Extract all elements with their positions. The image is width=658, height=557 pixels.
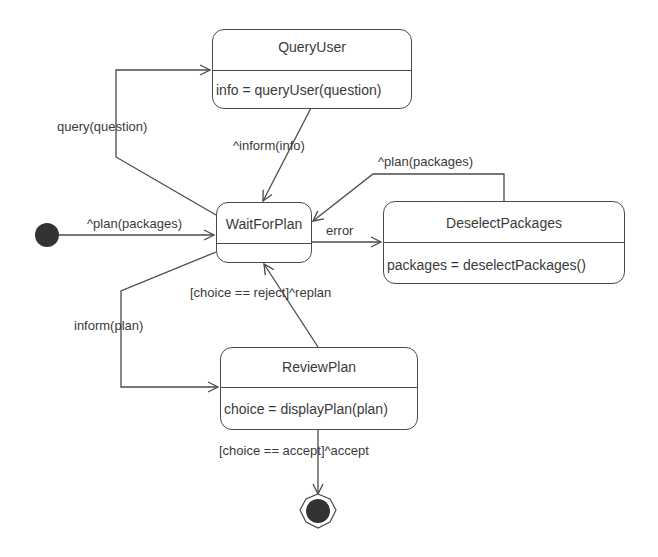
transition-queryuser-to-waitforplan <box>263 108 311 201</box>
label-return-plan-packages: ^plan(packages) <box>378 154 473 169</box>
label-inform-plan: inform(plan) <box>74 318 143 333</box>
label-error: error <box>326 223 353 238</box>
state-action: choice = displayPlan(plan) <box>224 401 415 417</box>
state-divider <box>217 243 311 244</box>
state-queryuser: QueryUser info = queryUser(question) <box>212 29 412 109</box>
label-reject-replan: [choice == reject]^replan <box>190 285 331 300</box>
label-inform-info: ^inform(info) <box>233 138 305 153</box>
state-name: QueryUser <box>213 39 411 55</box>
label-initial-plan-packages: ^plan(packages) <box>87 216 182 231</box>
label-query-question: query(question) <box>57 119 147 134</box>
state-divider <box>213 70 411 71</box>
state-reviewplan: ReviewPlan choice = displayPlan(plan) <box>220 347 418 430</box>
state-name: ReviewPlan <box>221 359 417 375</box>
state-action: packages = deselectPackages() <box>387 257 622 273</box>
state-waitforplan: WaitForPlan <box>216 202 312 263</box>
transition-waitforplan-to-queryuser <box>116 70 216 215</box>
final-state-icon <box>300 494 336 528</box>
state-divider <box>221 387 417 388</box>
state-divider <box>384 242 624 243</box>
label-accept: [choice == accept]^accept <box>219 443 369 458</box>
state-deselectpackages: DeselectPackages packages = deselectPack… <box>383 201 625 284</box>
transition-reviewplan-to-waitforplan <box>264 264 318 347</box>
initial-state-icon <box>35 223 59 247</box>
state-diagram: QueryUser info = queryUser(question) Wai… <box>0 0 658 557</box>
state-name: WaitForPlan <box>217 216 311 232</box>
state-name: DeselectPackages <box>384 215 624 231</box>
state-action: info = queryUser(question) <box>216 82 409 98</box>
